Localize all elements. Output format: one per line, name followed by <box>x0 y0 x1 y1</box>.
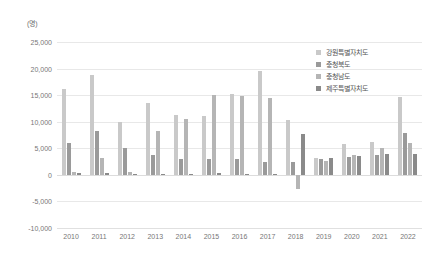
bar <box>146 103 150 175</box>
bar <box>245 174 249 175</box>
bar <box>291 162 295 175</box>
y-axis-tick-label: 15,000 <box>0 92 52 99</box>
bar-group <box>202 42 221 228</box>
bar <box>375 155 379 175</box>
legend-item[interactable]: 강원특별자치도 <box>316 49 368 56</box>
bar-group <box>370 42 389 228</box>
bar <box>72 172 76 175</box>
bar <box>352 155 356 175</box>
bar <box>370 142 374 174</box>
bar <box>268 98 272 175</box>
bar <box>230 94 234 175</box>
bar <box>77 173 81 175</box>
x-axis-tick-label: 2022 <box>400 233 416 240</box>
bar <box>95 131 99 175</box>
bar <box>67 143 71 175</box>
y-axis-tick-label: 0 <box>0 171 52 178</box>
bar-group <box>286 42 305 228</box>
x-axis-line <box>57 228 422 229</box>
bar <box>347 157 351 175</box>
bar <box>357 156 361 175</box>
bar-group <box>62 42 81 228</box>
chart-legend: 강원특별자치도충청북도충청남도제주특별자치도 <box>316 49 368 92</box>
bar <box>133 174 137 175</box>
x-axis-tick-label: 2020 <box>344 233 360 240</box>
y-axis-tick-label: 5,000 <box>0 145 52 152</box>
y-axis-tick-label: 25,000 <box>0 39 52 46</box>
legend-item-label: 충청남도 <box>326 73 350 80</box>
legend-swatch-icon <box>316 62 321 67</box>
bar-group <box>258 42 277 228</box>
bar <box>156 131 160 175</box>
legend-item-label: 제주특별자치도 <box>326 85 368 92</box>
y-axis-tick-label: 20,000 <box>0 65 52 72</box>
bar <box>202 116 206 174</box>
legend-item[interactable]: 제주특별자치도 <box>316 85 368 92</box>
x-axis-tick-label: 2016 <box>232 233 248 240</box>
bar-group <box>118 42 137 228</box>
y-axis-tick-label: -10,000 <box>0 225 52 232</box>
x-axis-tick-label: 2019 <box>316 233 332 240</box>
bar-group <box>230 42 249 228</box>
bar <box>286 120 290 175</box>
bar-group <box>146 42 165 228</box>
bar <box>301 134 305 175</box>
x-axis-tick-label: 2021 <box>372 233 388 240</box>
bar <box>263 162 267 175</box>
legend-item[interactable]: 충청북도 <box>316 61 368 68</box>
bar <box>212 95 216 175</box>
bar <box>161 174 165 175</box>
bar-group <box>174 42 193 228</box>
bar <box>105 173 109 175</box>
bar-group <box>90 42 109 228</box>
bar <box>128 172 132 175</box>
bar <box>151 155 155 175</box>
legend-item[interactable]: 충청남도 <box>316 73 368 80</box>
x-axis-tick-label: 2015 <box>204 233 220 240</box>
bar <box>398 97 402 175</box>
y-axis-tick-label: -5,000 <box>0 198 52 205</box>
y-axis-tick-label: 10,000 <box>0 118 52 125</box>
bar <box>118 122 122 175</box>
legend-swatch-icon <box>316 50 321 55</box>
x-axis-tick-label: 2014 <box>176 233 192 240</box>
bar <box>314 158 318 174</box>
bar-group <box>398 42 417 228</box>
legend-swatch-icon <box>316 74 321 79</box>
bar-chart: (명) 25,00020,00015,00010,0005,0000-5,000… <box>0 0 430 261</box>
bar <box>319 159 323 174</box>
legend-item-label: 강원특별자치도 <box>326 49 368 56</box>
x-axis-tick-label: 2017 <box>260 233 276 240</box>
x-axis-tick-label: 2010 <box>63 233 79 240</box>
y-axis-unit-label: (명) <box>27 18 38 28</box>
x-axis-tick-label: 2018 <box>288 233 304 240</box>
bar <box>403 133 407 175</box>
bar <box>217 173 221 175</box>
bar <box>385 154 389 175</box>
bar <box>100 158 104 174</box>
bar <box>184 119 188 175</box>
bar <box>207 159 211 175</box>
bar <box>380 148 384 175</box>
bar <box>174 115 178 175</box>
bar <box>408 143 412 175</box>
bar <box>189 174 193 175</box>
bar <box>296 175 300 189</box>
bar <box>413 154 417 175</box>
bar <box>240 96 244 175</box>
bar <box>235 159 239 175</box>
bar <box>179 159 183 174</box>
bar <box>90 75 94 174</box>
bar <box>258 71 262 175</box>
legend-item-label: 충청북도 <box>326 61 350 68</box>
bar <box>324 161 328 175</box>
x-axis-tick-label: 2013 <box>147 233 163 240</box>
bar <box>273 174 277 175</box>
bar <box>62 89 66 175</box>
x-axis-tick-label: 2011 <box>92 233 107 240</box>
legend-swatch-icon <box>316 86 321 91</box>
bar <box>329 158 333 174</box>
bar <box>342 144 346 175</box>
x-axis-tick-label: 2012 <box>119 233 135 240</box>
bar <box>123 148 127 175</box>
